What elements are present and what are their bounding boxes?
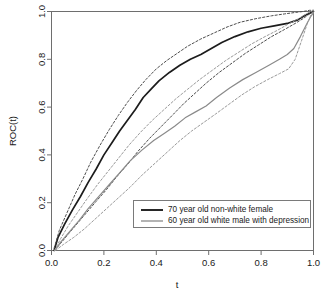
y-tick-label: 0.6 xyxy=(36,100,47,113)
x-tick-label: 0.8 xyxy=(254,257,267,268)
legend-label-0: 70 year old non-white female xyxy=(168,205,274,214)
roc-plot-svg: 0.00.20.40.60.81.0 0.00.20.40.60.81.0 RO… xyxy=(0,0,329,293)
x-axis-title: t xyxy=(176,279,179,290)
chart-legend: 70 year old non-white female60 year old … xyxy=(134,201,311,228)
roc-chart-figure: 0.00.20.40.60.81.0 0.00.20.40.60.81.0 RO… xyxy=(0,0,329,293)
legend-label-1: 60 year old white male with depression xyxy=(168,216,310,225)
x-tick-label: 0.6 xyxy=(202,257,215,268)
x-tick-label: 0.2 xyxy=(97,257,110,268)
y-tick-label: 1.0 xyxy=(36,5,47,18)
y-tick-label: 0.8 xyxy=(36,53,47,66)
y-axis-title: ROC(t) xyxy=(7,116,18,146)
x-tick-label: 0.0 xyxy=(45,257,58,268)
x-tick-label: 1.0 xyxy=(307,257,320,268)
y-tick-label: 0.2 xyxy=(36,196,47,209)
y-tick-label: 0.4 xyxy=(36,148,47,161)
y-tick-label: 0.0 xyxy=(36,244,47,257)
x-tick-label: 0.4 xyxy=(150,257,163,268)
plot-background xyxy=(0,0,329,293)
